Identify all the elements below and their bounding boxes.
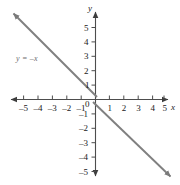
x-tick-label-2: 2	[122, 104, 127, 113]
y-tick-label-5: 5	[84, 24, 89, 33]
y-tick-label-neg5: –5	[79, 168, 88, 177]
line-segment-lower-right	[93, 102, 171, 177]
y-tick-label-neg3: –3	[79, 139, 88, 148]
y-tick-label-3: 3	[84, 52, 89, 61]
line-equation-label: y = –x	[16, 55, 38, 63]
origin-label: 0	[85, 100, 90, 109]
x-tick-label-neg3: –3	[48, 104, 57, 113]
y-tick-label-neg4: –4	[79, 153, 88, 162]
y-tick-label-neg2: –2	[79, 124, 88, 133]
y-tick-label-neg1: –1	[79, 110, 88, 119]
x-axis-label: x	[171, 103, 175, 112]
x-tick-label-4: 4	[151, 104, 156, 113]
x-tick-label-1: 1	[107, 104, 112, 113]
coordinate-plane-figure: –5 –4 –3 –2 –1 1 2 3 4 5 0 5 4 3 2 1 –1 …	[0, 0, 180, 185]
y-tick-label-1: 1	[85, 81, 90, 90]
x-axis-ticks	[24, 96, 164, 100]
y-tick-label-2: 2	[84, 67, 89, 76]
x-tick-label-3: 3	[136, 104, 141, 113]
x-tick-label-neg2: –2	[62, 104, 71, 113]
y-tick-label-4: 4	[84, 38, 89, 47]
plotted-line-y-equals-negative-x	[14, 14, 171, 177]
x-tick-label-neg5: –5	[19, 104, 28, 113]
x-tick-label-neg4: –4	[33, 104, 42, 113]
x-tick-label-5: 5	[163, 104, 168, 113]
y-axis-label: y	[88, 4, 92, 13]
graph-canvas	[0, 0, 180, 185]
